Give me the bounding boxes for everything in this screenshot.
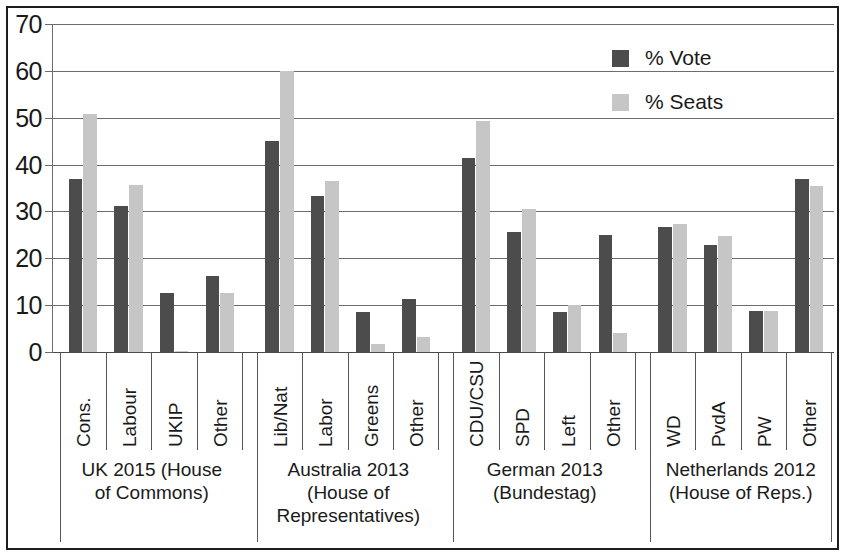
bar-wd-seats (673, 224, 687, 352)
category-cell-labor: Labor (302, 352, 348, 450)
bar-chart-figure: 010203040506070 % Vote % Seats Cons.Labo… (0, 0, 845, 556)
category-cell-left: Left (544, 352, 590, 450)
category-cell-labour: Labour (106, 352, 152, 450)
bar-pvda-seats (718, 236, 732, 352)
group-label: UK 2015 (House of Commons) (82, 458, 222, 504)
bar-wd-vote (658, 227, 672, 352)
legend-label-seats: % Seats (645, 90, 723, 114)
bar-cons--vote (69, 179, 83, 352)
category-cell-other: Other (590, 352, 636, 450)
y-axis-label-70: 70 (15, 12, 42, 37)
category-cell-cons-: Cons. (60, 352, 106, 450)
category-label: SPD (512, 408, 531, 447)
bar-greens-vote (356, 312, 370, 352)
bar-lib-nat-seats (280, 71, 294, 352)
y-axis-label-60: 60 (15, 58, 42, 83)
bar-other-vote (206, 276, 220, 352)
group-cell-2: German 2013 (Bundestag) (453, 450, 636, 542)
category-cell-spd: SPD (499, 352, 545, 450)
y-axis-label-10: 10 (15, 293, 42, 318)
bar-greens-seats (371, 344, 385, 352)
bar-pw-seats (764, 311, 778, 352)
group-label: Australia 2013 (House of Representatives… (276, 458, 420, 528)
legend-item-vote: % Vote (612, 36, 812, 80)
y-axis-label-40: 40 (15, 152, 42, 177)
category-label: UKIP (165, 403, 184, 447)
category-axis-labels: Cons.LabourUKIPOtherLib/NatLaborGreensOt… (52, 352, 834, 450)
bar-cdu-csu-vote (462, 158, 476, 352)
legend-label-vote: % Vote (645, 46, 712, 70)
group-cell-3: Netherlands 2012 (House of Reps.) (650, 450, 833, 542)
bar-other-seats (417, 337, 431, 352)
category-label: Cons. (74, 397, 93, 447)
y-axis-label-20: 20 (15, 246, 42, 271)
category-label: PvdA (709, 402, 728, 447)
chart-legend: % Vote % Seats (612, 36, 812, 124)
category-cell-pw: PW (741, 352, 787, 450)
group-label: Netherlands 2012 (House of Reps.) (666, 458, 816, 504)
bar-cdu-csu-seats (476, 121, 490, 352)
y-axis-label-50: 50 (15, 105, 42, 130)
category-label: Other (210, 399, 229, 447)
bar-lib-nat-vote (265, 141, 279, 352)
bar-spd-vote (507, 232, 521, 352)
category-label: Labour (119, 388, 138, 447)
bar-left-seats (568, 305, 582, 352)
category-cell-pvda: PvdA (695, 352, 741, 450)
bar-spd-seats (522, 209, 536, 352)
bar-other-seats (810, 186, 824, 352)
bar-labour-vote (114, 206, 128, 352)
category-label: Other (800, 399, 819, 447)
category-label: WD (663, 415, 682, 447)
category-label: Lib/Nat (270, 387, 289, 447)
y-axis-label-30: 30 (15, 199, 42, 224)
bar-pw-vote (749, 311, 763, 352)
group-cell-1: Australia 2013 (House of Representatives… (257, 450, 440, 542)
bar-labor-vote (311, 196, 325, 353)
legend-swatch-seats-icon (612, 94, 629, 111)
category-cell-cdu-csu: CDU/CSU (453, 352, 499, 450)
category-cell-other: Other (197, 352, 243, 450)
legend-item-seats: % Seats (612, 80, 812, 124)
bar-other-vote (599, 235, 613, 352)
legend-swatch-vote-icon (612, 50, 629, 67)
category-label: Other (603, 399, 622, 447)
bar-labor-seats (325, 181, 339, 352)
bar-other-seats (220, 293, 234, 352)
category-cell-greens: Greens (348, 352, 394, 450)
group-cell-0: UK 2015 (House of Commons) (60, 450, 243, 542)
category-label: PW (755, 416, 774, 447)
bar-other-vote (795, 179, 809, 352)
y-axis-label-0: 0 (29, 340, 42, 365)
bar-labour-seats (129, 185, 143, 352)
category-label: CDU/CSU (467, 360, 486, 447)
group-axis-labels: UK 2015 (House of Commons)Australia 2013… (52, 450, 834, 542)
category-label: Other (407, 399, 426, 447)
category-cell-other: Other (786, 352, 832, 450)
category-label: Left (558, 415, 577, 447)
bar-ukip-vote (160, 293, 174, 352)
bar-left-vote (553, 312, 567, 352)
bar-pvda-vote (704, 245, 718, 352)
category-cell-wd: WD (650, 352, 696, 450)
bar-cons--seats (83, 114, 97, 353)
category-cell-ukip: UKIP (151, 352, 197, 450)
category-label: Labor (316, 398, 335, 447)
category-cell-lib-nat: Lib/Nat (257, 352, 303, 450)
group-label: German 2013 (Bundestag) (487, 458, 603, 504)
category-cell-other: Other (393, 352, 439, 450)
bar-other-seats (613, 333, 627, 352)
bar-other-vote (402, 299, 416, 352)
category-label: Greens (362, 385, 381, 447)
